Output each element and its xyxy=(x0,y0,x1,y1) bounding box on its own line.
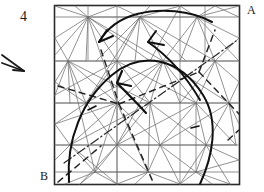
flow-direction-arrow xyxy=(2,55,24,71)
corner-label-a: A xyxy=(247,4,256,17)
figure-number-label: 4 xyxy=(20,10,27,23)
corner-label-b: B xyxy=(40,170,48,183)
technical-figure xyxy=(0,0,264,192)
figure-canvas: 4 A B xyxy=(0,0,264,192)
